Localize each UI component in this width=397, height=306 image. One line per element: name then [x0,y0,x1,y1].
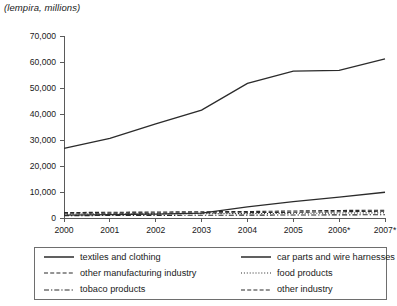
chart-legend: textiles and clothingother manufacturing… [34,247,387,300]
series-layer [64,59,385,216]
y-axis-tick-label: 0 [51,213,56,223]
legend-item-label: tobaco products [80,285,145,294]
x-axis-tick-label: 2005 [284,225,303,235]
x-axis-tick-label: 2001 [100,225,119,235]
x-axis-tick-label: 2000 [54,225,73,235]
dotted-line-swatch [240,268,272,278]
legend-item[interactable]: other industry [240,285,396,295]
dashed-line-swatch [43,268,75,278]
legend-item[interactable]: car parts and wire harnesses [240,252,396,262]
y-axis-tick-label: 60,000 [30,57,57,67]
legend-item[interactable]: textiles and clothing [43,252,240,262]
x-axis-tick-label: 2003 [192,225,211,235]
y-axis-tick-label: 50,000 [30,83,57,93]
dash-dot-line-swatch [43,285,75,295]
y-axis-tick-label: 40,000 [30,109,57,119]
x-axis-tick-label: 2002 [146,225,165,235]
series-line [64,59,385,148]
legend-item[interactable]: food products [240,268,396,278]
legend-item-label: textiles and clothing [80,253,161,262]
legend-item[interactable]: tobaco products [43,285,240,295]
y-axis: 010,00020,00030,00040,00050,00060,00070,… [30,31,64,223]
x-axis-tick-label: 2004 [238,225,257,235]
dashed-line-swatch [240,285,272,295]
legend-item-label: other industry [277,285,333,294]
chart-plot-area: 010,00020,00030,00040,00050,00060,00070,… [0,0,397,247]
legend-item-label: car parts and wire harnesses [277,253,395,262]
x-axis: 2000200120022003200420052006*2007* [54,218,396,235]
x-axis-tick-label: 2006* [328,225,351,235]
y-axis-tick-label: 10,000 [30,187,57,197]
y-axis-tick-label: 30,000 [30,135,57,145]
legend-item[interactable]: other manufacturing industry [43,268,240,278]
series-line [64,213,385,214]
x-axis-tick-label: 2007* [374,225,397,235]
solid-line-swatch [240,252,272,262]
chart-container: (lempira, millions) 010,00020,00030,0004… [0,0,397,306]
legend-item-label: food products [277,269,333,278]
solid-line-swatch [43,252,75,262]
y-axis-tick-label: 70,000 [30,31,57,41]
y-axis-tick-label: 20,000 [30,161,57,171]
legend-item-label: other manufacturing industry [80,269,196,278]
